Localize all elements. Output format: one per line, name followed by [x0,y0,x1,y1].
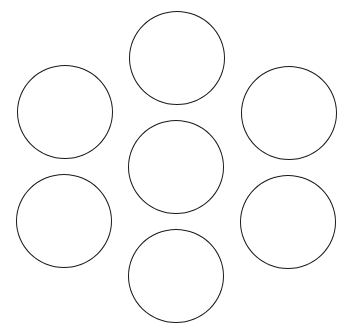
circle-bottom [128,229,224,323]
circle-top [129,11,225,105]
circle-lower-left [16,174,112,268]
circle-upper-right [241,66,337,160]
circle-lower-right [240,175,336,269]
circle-upper-left [17,65,113,159]
diagram-canvas [0,0,350,336]
circle-center [128,120,224,214]
